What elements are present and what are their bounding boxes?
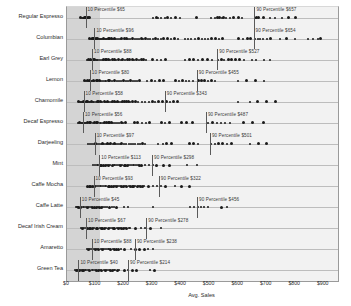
data-point (168, 121, 171, 124)
y-axis-label: Chamomile (35, 98, 63, 104)
data-point (179, 17, 181, 19)
data-point (157, 100, 160, 103)
dot-strip-row: 10 Percentile $4090 Percentile $214 (67, 260, 338, 281)
data-point (274, 100, 277, 103)
data-point (249, 101, 251, 103)
x-axis-tick-label: $200 (117, 281, 129, 286)
data-point (251, 121, 254, 124)
x-axis-tick-label: $900 (317, 281, 329, 286)
data-point (135, 269, 138, 272)
data-point (188, 185, 191, 188)
x-axis-tick-label: $500 (203, 281, 215, 286)
data-point (257, 142, 260, 145)
percentile-90-line (135, 239, 136, 260)
percentile-10-line (80, 197, 81, 218)
data-point (156, 59, 158, 61)
data-point (204, 38, 206, 40)
data-point (230, 58, 233, 61)
data-point (191, 121, 194, 124)
percentile-10-line (92, 239, 93, 260)
percentile-90-line (210, 133, 211, 154)
percentile-90-label: 90 Percentile $298 (154, 156, 194, 161)
percentile-10-label: 10 Percentile $80 (92, 71, 129, 76)
data-point (188, 142, 191, 145)
dot-strip-row: 10 Percentile $8090 Percentile $455 (67, 70, 338, 91)
percentile-10-label: 10 Percentile $45 (82, 198, 119, 203)
data-point (269, 17, 271, 19)
data-point (254, 79, 257, 82)
data-point (170, 142, 173, 145)
data-point (187, 38, 189, 40)
percentile-90-label: 90 Percentile $238 (137, 240, 177, 245)
data-point (184, 38, 186, 40)
data-point (266, 38, 268, 40)
percentile-90-label: 90 Percentile $214 (130, 261, 170, 266)
data-point (149, 227, 152, 230)
data-point (257, 16, 260, 19)
percentile-10-label: 10 Percentile $96 (96, 29, 133, 34)
data-point (211, 59, 213, 61)
dot-strip-row: 10 Percentile $6790 Percentile $278 (67, 218, 338, 239)
percentile-10-label: 10 Percentile $56 (85, 113, 122, 118)
data-point (206, 58, 209, 61)
data-point (148, 101, 150, 103)
data-point (176, 100, 179, 103)
percentile-10-label: 10 Percentile $88 (94, 240, 131, 245)
percentile-10-line (94, 176, 95, 197)
data-point (152, 206, 154, 208)
data-point (197, 37, 200, 40)
data-point (274, 17, 276, 19)
percentile-10-line (99, 155, 100, 176)
percentile-10-line (94, 28, 95, 49)
dot-strip-row: 10 Percentile $8890 Percentile $238 (67, 239, 338, 260)
data-point (255, 59, 257, 61)
data-point (185, 80, 187, 82)
data-point (221, 142, 224, 145)
data-point (151, 100, 154, 103)
data-point (146, 80, 148, 82)
data-point (192, 58, 195, 61)
data-point (265, 142, 268, 145)
percentile-90-line (206, 112, 207, 133)
dot-strip-row: 10 Percentile $4590 Percentile $456 (67, 197, 338, 218)
percentile-90-label: 90 Percentile $456 (199, 198, 239, 203)
data-point (226, 206, 228, 208)
data-point (227, 58, 230, 61)
data-point (269, 59, 271, 61)
percentile-10-label: 10 Percentile $58 (86, 92, 123, 97)
data-point (210, 37, 213, 40)
plot-area: 10 Percentile $6590 Percentile $65710 Pe… (66, 6, 339, 282)
y-axis-label: Caffe Mocha (31, 182, 63, 188)
data-point (123, 269, 126, 272)
dot-strip-row: 10 Percentile $5690 Percentile $487 (67, 112, 338, 133)
data-point (123, 248, 126, 251)
data-point (124, 121, 127, 124)
data-point (162, 143, 164, 145)
data-point (145, 59, 147, 61)
dot-strip-row: 10 Percentile $6590 Percentile $657 (67, 7, 338, 28)
percentile-10-label: 10 Percentile $113 (101, 156, 141, 161)
data-point (115, 206, 118, 209)
data-point (151, 58, 154, 61)
x-axis-tick-label: $100 (89, 281, 101, 286)
data-point (225, 17, 227, 19)
y-axis-label: Darjeeling (38, 140, 63, 146)
data-point (218, 38, 220, 40)
percentile-90-label: 90 Percentile $527 (219, 50, 259, 55)
data-point (246, 37, 249, 40)
percentile-10-label: 10 Percentile $97 (97, 134, 134, 139)
data-point (220, 58, 223, 61)
data-point (211, 121, 214, 124)
data-point (197, 59, 199, 61)
percentile-10-line (86, 218, 87, 239)
data-point (189, 206, 191, 208)
data-point (160, 17, 162, 19)
dot-strip-row: 10 Percentile $8890 Percentile $527 (67, 49, 338, 70)
data-point (136, 121, 139, 124)
y-axis-label: Amaretto (40, 246, 63, 252)
data-point (262, 38, 264, 40)
x-axis-tick-label: $700 (260, 281, 272, 286)
data-point (180, 121, 183, 124)
percentile-90-line (128, 260, 129, 281)
percentile-10-label: 10 Percentile $93 (96, 177, 133, 182)
